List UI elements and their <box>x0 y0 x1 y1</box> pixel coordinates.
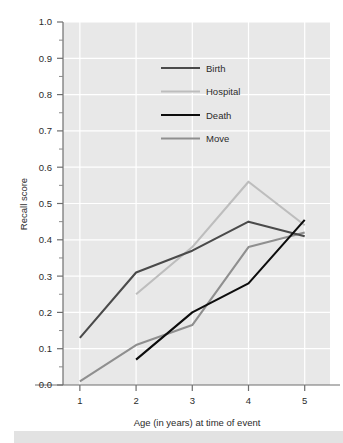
y-tick-label: 0.3 <box>39 271 52 282</box>
x-tick-label: 1 <box>77 395 82 406</box>
x-tick-label: 3 <box>190 395 195 406</box>
y-tick-label: 0.4 <box>39 234 52 245</box>
x-tick-label: 4 <box>246 395 251 406</box>
y-tick-label: 0.7 <box>39 125 52 136</box>
y-tick-label: 0.5 <box>39 198 52 209</box>
figure-container: 0.00.10.20.30.40.50.60.70.80.91.0 12345 … <box>0 0 343 443</box>
y-tick-label: 0.2 <box>39 307 52 318</box>
y-tick-label: 0.0 <box>39 379 52 390</box>
y-tick-label: 0.8 <box>39 89 52 100</box>
y-tick-label: 0.6 <box>39 162 52 173</box>
y-axis-title: Recall score <box>18 178 29 230</box>
legend-label-death: Death <box>206 110 231 121</box>
y-tick-label: 0.1 <box>39 343 52 354</box>
y-tick-label: 0.9 <box>39 53 52 64</box>
recall-score-line-chart: 0.00.10.20.30.40.50.60.70.80.91.0 12345 … <box>0 0 343 443</box>
legend-label-move: Move <box>206 133 229 144</box>
bottom-decorative-bar <box>14 431 343 443</box>
y-tick-label: 1.0 <box>39 16 52 27</box>
x-tick-label: 2 <box>133 395 138 406</box>
x-tick-label: 5 <box>302 395 307 406</box>
legend-label-hospital: Hospital <box>206 86 240 97</box>
legend-label-birth: Birth <box>206 63 226 74</box>
x-axis-title: Age (in years) at time of event <box>134 417 261 428</box>
